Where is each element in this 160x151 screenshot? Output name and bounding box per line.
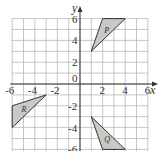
x-axis-label: x [149, 83, 156, 97]
x-tick-label: -4 [28, 84, 38, 96]
x-tick-label: 2 [100, 84, 106, 96]
y-axis-label: y [71, 1, 78, 15]
triangle-q [91, 117, 125, 150]
origin-label: 0 [72, 72, 78, 84]
x-tick-label: -2 [50, 84, 59, 96]
triangle-label: P [103, 26, 109, 35]
triangle-label: Q [104, 135, 110, 144]
triangle-p [91, 19, 125, 52]
triangle-r [12, 95, 46, 128]
y-axis-arrow-icon [78, 6, 83, 12]
x-tick-label: -6 [5, 84, 15, 96]
triangle-label: R [21, 105, 27, 114]
y-tick-label: 4 [72, 34, 78, 46]
y-tick-label: -4 [68, 122, 78, 134]
y-tick-label: -2 [68, 100, 77, 112]
y-tick-label: 2 [72, 56, 78, 68]
axes [10, 6, 158, 151]
x-tick-label: 4 [122, 84, 128, 96]
tick-labels: -6-4-2246642-2-4-60xy [5, 1, 156, 151]
coordinate-grid: PQR -6-4-2246642-2-4-60xy [0, 0, 160, 151]
y-tick-label: -6 [68, 143, 78, 151]
